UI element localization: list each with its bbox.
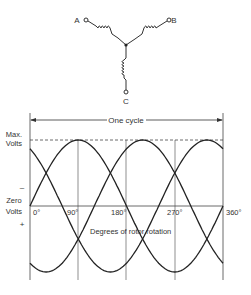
zero-label-line1: Zero xyxy=(6,196,21,205)
one-cycle-label: One cycle xyxy=(108,116,144,125)
coil-c xyxy=(122,45,126,90)
arrow-right-icon xyxy=(217,118,223,122)
minus-label: – xyxy=(20,183,25,192)
terminal-c-icon xyxy=(124,90,128,94)
plus-label: + xyxy=(20,220,25,229)
neutral-node-icon xyxy=(124,43,127,46)
arrow-left-icon xyxy=(30,118,36,122)
terminal-b-label: B xyxy=(171,16,176,25)
wye-connection xyxy=(84,18,171,94)
tick-360: 360° xyxy=(226,208,242,217)
tick-270: 270° xyxy=(167,208,183,217)
zero-label-line2: Volts xyxy=(6,207,23,216)
tick-0: 0° xyxy=(33,208,40,217)
tick-180: 180° xyxy=(111,208,127,217)
terminal-a-label: A xyxy=(74,16,80,25)
coil-a xyxy=(88,21,126,45)
tick-90: 90° xyxy=(67,208,78,217)
three-phase-diagram: A B C One cycle Max. Volts – Zero Volts … xyxy=(0,0,251,295)
terminal-c-label: C xyxy=(123,97,129,106)
max-label-line2: Volts xyxy=(6,139,23,148)
terminal-a-icon xyxy=(84,18,88,22)
x-axis-label: Degrees of rotor rotation xyxy=(90,227,171,236)
coil-b xyxy=(126,21,167,45)
graph-gridlines xyxy=(30,113,223,280)
max-label-line1: Max. xyxy=(6,130,22,139)
